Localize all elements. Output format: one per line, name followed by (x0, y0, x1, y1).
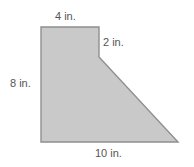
dimension-label-bottom: 10 in. (95, 147, 122, 160)
dimension-label-left: 8 in. (10, 77, 31, 90)
figure-container: 4 in. 2 in. 8 in. 10 in. (0, 0, 194, 167)
dimension-label-right: 2 in. (103, 36, 124, 49)
dimension-label-top: 4 in. (55, 10, 76, 23)
